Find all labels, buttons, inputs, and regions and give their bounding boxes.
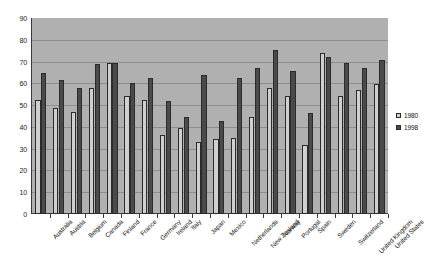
bar-group <box>370 18 388 214</box>
bar-1980 <box>124 96 129 214</box>
x-axis-category-label: Mexico <box>228 218 247 237</box>
bar-1980 <box>356 90 361 214</box>
y-axis-tick-label: 90 <box>20 15 27 22</box>
bar-1998 <box>379 60 384 214</box>
y-axis-tick-label: 20 <box>20 167 27 174</box>
legend-item-1998: 1998 <box>396 124 438 131</box>
bar-chart: 0102030405060708090 AustraliaAustriaBelg… <box>0 0 438 276</box>
bar-group <box>50 18 68 214</box>
legend-item-1980: 1980 <box>396 112 438 119</box>
y-axis: 0102030405060708090 <box>0 0 31 232</box>
bar-1998 <box>112 63 117 214</box>
bar-1998 <box>166 101 171 214</box>
y-axis-tick-label: 80 <box>20 36 27 43</box>
bar-1998 <box>41 73 46 214</box>
legend-label-1980: 1980 <box>404 112 418 119</box>
bar-group <box>32 18 50 214</box>
bar-1998 <box>201 75 206 214</box>
bar-group <box>352 18 370 214</box>
chart-legend: 1980 1998 <box>396 112 438 136</box>
bar-1998 <box>219 121 224 214</box>
bar-group <box>246 18 264 214</box>
bar-1980 <box>196 142 201 214</box>
y-axis-tick-label: 60 <box>20 80 27 87</box>
bar-1998 <box>290 71 295 214</box>
bar-group <box>228 18 246 214</box>
x-axis-category-label: Sweden <box>335 218 356 239</box>
bar-1980 <box>213 139 218 214</box>
bar-1980 <box>374 84 379 214</box>
bar-1980 <box>267 88 272 214</box>
bar-1998 <box>77 88 82 214</box>
y-axis-tick-label: 50 <box>20 102 27 109</box>
x-axis-category-label: Switzerland <box>356 218 384 246</box>
bar-1980 <box>142 100 147 214</box>
bar-1980 <box>160 135 165 214</box>
bar-1998 <box>255 68 260 214</box>
x-axis-labels: AustraliaAustriaBelgiumCanadaFinlandFran… <box>32 218 388 276</box>
bars-layer <box>32 18 388 214</box>
y-axis-tick-label: 30 <box>20 145 27 152</box>
y-axis-tick-label: 0 <box>23 211 27 218</box>
bar-1998 <box>59 80 64 214</box>
legend-swatch-icon-1998 <box>396 125 401 130</box>
y-axis-tick-label: 70 <box>20 58 27 65</box>
bar-1980 <box>302 145 307 214</box>
bar-group <box>103 18 121 214</box>
bar-group <box>281 18 299 214</box>
bar-1980 <box>320 53 325 214</box>
x-axis-category-label: Italy <box>190 218 203 231</box>
bar-1980 <box>53 108 58 214</box>
y-axis-tick-label: 10 <box>20 189 27 196</box>
bar-1980 <box>285 96 290 214</box>
bar-group <box>68 18 86 214</box>
bar-1998 <box>148 78 153 214</box>
x-axis-category-label: Belgium <box>86 218 107 239</box>
legend-swatch-icon-1980 <box>396 113 401 118</box>
bar-1980 <box>178 128 183 214</box>
bar-1980 <box>89 88 94 214</box>
bar-group <box>335 18 353 214</box>
bar-1998 <box>95 64 100 214</box>
bar-1980 <box>338 96 343 214</box>
bar-group <box>192 18 210 214</box>
bar-group <box>157 18 175 214</box>
bar-group <box>174 18 192 214</box>
bar-1998 <box>362 68 367 214</box>
bar-group <box>210 18 228 214</box>
bar-group <box>263 18 281 214</box>
x-axis-category-label: Finland <box>121 218 141 238</box>
bar-1998 <box>184 117 189 214</box>
legend-label-1998: 1998 <box>404 124 418 131</box>
y-axis-tick-label: 40 <box>20 123 27 130</box>
bar-1980 <box>107 63 112 214</box>
x-axis-tick <box>388 214 389 218</box>
bar-1980 <box>249 117 254 214</box>
bar-group <box>85 18 103 214</box>
bar-group <box>139 18 157 214</box>
x-axis-category-label: Japan <box>209 218 226 235</box>
bar-group <box>299 18 317 214</box>
bar-group <box>317 18 335 214</box>
bar-1998 <box>326 57 331 214</box>
bar-1998 <box>308 113 313 214</box>
bar-group <box>121 18 139 214</box>
bar-1998 <box>237 78 242 214</box>
bar-1998 <box>273 50 278 214</box>
bar-1980 <box>231 138 236 214</box>
x-axis-category-label: Norway <box>282 218 302 238</box>
x-axis-category-label: France <box>139 218 158 237</box>
bar-1980 <box>35 100 40 214</box>
bar-1980 <box>71 112 76 214</box>
bar-1998 <box>130 83 135 214</box>
bar-1998 <box>344 63 349 214</box>
